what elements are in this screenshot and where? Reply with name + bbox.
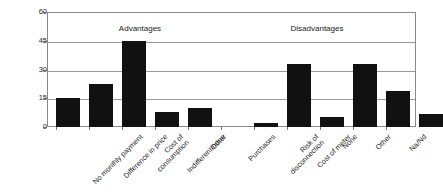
x-label-na-nd: Na/Nd xyxy=(408,133,429,154)
x-label-other-disadvantages: Other xyxy=(374,133,393,152)
x-label-line: Na/Nd xyxy=(408,133,429,154)
x-label-line: Purchases xyxy=(247,133,277,163)
x-label-other-advantages: Other xyxy=(209,133,228,152)
x-label-line: Other xyxy=(374,133,393,152)
x-label-line: Other xyxy=(209,133,228,152)
x-label-purchases: Purchases xyxy=(247,133,277,163)
x-label-risk-of-disconnection: Risk of disconnection xyxy=(283,133,326,176)
